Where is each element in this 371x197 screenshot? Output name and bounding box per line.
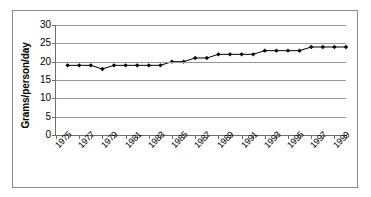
data-point-marker bbox=[274, 48, 278, 52]
y-axis-tick bbox=[52, 43, 56, 44]
data-point-marker bbox=[251, 52, 255, 56]
data-point-marker bbox=[89, 63, 93, 67]
y-axis-tick bbox=[52, 98, 56, 99]
y-axis-tick-label: 30 bbox=[31, 20, 51, 30]
data-point-marker bbox=[65, 63, 69, 67]
y-axis-tick-label: 25 bbox=[31, 38, 51, 48]
chart-plot-wrapper: Grams/person/day 051015202530 1975197719… bbox=[13, 11, 357, 187]
x-axis-tick-labels: 1975197719791981198319851987198919911993… bbox=[55, 139, 345, 185]
gridline bbox=[56, 25, 346, 26]
data-point-marker bbox=[205, 56, 209, 60]
gridline bbox=[56, 62, 346, 63]
data-point-marker bbox=[344, 45, 348, 49]
data-point-marker bbox=[193, 56, 197, 60]
data-point-marker bbox=[321, 45, 325, 49]
y-axis-title-text: Grams/person/day bbox=[20, 42, 31, 128]
gridline bbox=[56, 98, 346, 99]
data-point-marker bbox=[100, 67, 104, 71]
data-point-marker bbox=[158, 63, 162, 67]
data-point-marker bbox=[135, 63, 139, 67]
data-point-marker bbox=[123, 63, 127, 67]
data-point-marker bbox=[77, 63, 81, 67]
y-axis-tick bbox=[52, 80, 56, 81]
data-point-marker bbox=[216, 52, 220, 56]
data-point-marker bbox=[263, 48, 267, 52]
y-axis-tick bbox=[52, 117, 56, 118]
plot-area bbox=[55, 25, 346, 136]
y-axis-tick bbox=[52, 25, 56, 26]
y-axis-tick-label: 20 bbox=[31, 57, 51, 67]
chart-frame: Grams/person/day 051015202530 1975197719… bbox=[12, 10, 358, 188]
gridline bbox=[56, 80, 346, 81]
data-point-marker bbox=[112, 63, 116, 67]
data-point-marker bbox=[332, 45, 336, 49]
y-axis-tick-label: 10 bbox=[31, 93, 51, 103]
data-point-marker bbox=[228, 52, 232, 56]
data-point-marker bbox=[147, 63, 151, 67]
y-axis-tick-label: 15 bbox=[31, 75, 51, 85]
y-axis-tick-label: 0 bbox=[31, 130, 51, 140]
gridline bbox=[56, 43, 346, 44]
data-point-marker bbox=[239, 52, 243, 56]
y-axis-tick bbox=[52, 62, 56, 63]
y-axis-tick-labels: 051015202530 bbox=[31, 11, 51, 187]
gridline bbox=[56, 117, 346, 118]
data-point-marker bbox=[297, 48, 301, 52]
data-point-marker bbox=[309, 45, 313, 49]
data-point-marker bbox=[286, 48, 290, 52]
y-axis-tick-label: 5 bbox=[31, 112, 51, 122]
